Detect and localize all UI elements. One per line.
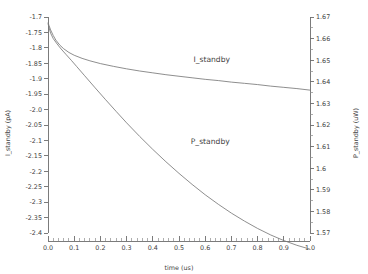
secondary-y-axis-tick-label: 1.57	[316, 229, 330, 237]
secondary-y-axis-tick-label: 1.64	[316, 78, 330, 86]
x-axis-tick-label: 0.1	[69, 244, 79, 252]
y-axis-tick-label: -2.1	[30, 137, 42, 145]
secondary-y-axis-tick-label: 1.6	[316, 165, 326, 173]
secondary-y-axis-tick-label: 1.63	[316, 100, 330, 108]
secondary-y-axis-tick-label: 1.67	[316, 13, 330, 21]
y-axis-tick-label: -1.9	[30, 75, 42, 83]
secondary-y-axis-tick-label: 1.66	[316, 35, 330, 43]
y-axis-tick-label: -2.25	[25, 183, 42, 191]
x-axis-tick-label: 0.0	[43, 244, 53, 252]
secondary-y-axis-tick-label: 1.58	[316, 208, 330, 216]
y-axis-tick-label: -2.15	[25, 152, 42, 160]
y-axis-tick-label: -1.8	[30, 44, 42, 52]
y-axis-tick-label: -2.3	[30, 198, 42, 206]
x-axis-tick-label: 0.5	[174, 244, 184, 252]
x-axis-tick-label: 0.4	[148, 244, 158, 252]
y-axis-tick-label: -1.7	[30, 13, 42, 21]
secondary-y-axis-tick-label: 1.59	[316, 186, 330, 194]
y-axis-tick-label: -1.75	[25, 29, 42, 37]
y-axis-title: I_standby (pA)	[4, 110, 12, 156]
y-axis-tick-label: -1.85	[25, 60, 42, 68]
y-axis-tick-label: -2.0	[30, 106, 42, 114]
secondary-y-axis-tick-label: 1.62	[316, 121, 330, 129]
x-axis-tick-label: 0.7	[226, 244, 236, 252]
x-axis-tick-label: 0.8	[253, 244, 263, 252]
x-axis-tick-label: 0.6	[200, 244, 210, 252]
chart-container: -1.7-1.75-1.8-1.85-1.9-1.95-2.0-2.05-2.1…	[0, 0, 368, 274]
y-axis-tick-label: -1.95	[25, 90, 42, 98]
x-axis-tick-label: 0.9	[279, 244, 289, 252]
secondary-y-axis-tick-label: 1.65	[316, 57, 330, 65]
secondary-y-axis-tick-label: 1.61	[316, 143, 330, 151]
y-axis-tick-label: -2.35	[25, 214, 42, 222]
y-axis-tick-label: -2.2	[30, 168, 42, 176]
x-axis-tick-label: 0.3	[122, 244, 132, 252]
secondary-y-axis-title: P_standby (uW)	[352, 108, 360, 158]
x-axis-tick-label: 0.2	[95, 244, 105, 252]
series-label-i_standby: I_standby	[193, 55, 230, 64]
dual-axis-line-chart: -1.7-1.75-1.8-1.85-1.9-1.95-2.0-2.05-2.1…	[0, 0, 368, 274]
series-label-p_standby: P_standby	[191, 137, 230, 146]
y-axis-tick-label: -2.4	[30, 229, 42, 237]
y-axis-tick-label: -2.05	[25, 121, 42, 129]
x-axis-title: time (us)	[165, 264, 194, 272]
